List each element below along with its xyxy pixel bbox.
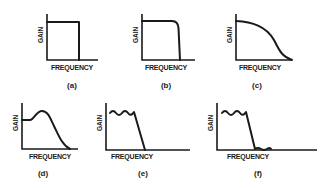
response-curve <box>22 111 70 149</box>
x-axis-label: FREQUENCY <box>51 64 94 72</box>
panel-e: GAIN FREQUENCY (e) <box>96 103 190 178</box>
panel-caption: (c) <box>252 81 262 90</box>
axes <box>106 103 190 150</box>
response-curve <box>222 111 271 150</box>
x-axis-label: FREQUENCY <box>111 153 154 161</box>
panel-d: GAIN FREQUENCY (d) <box>12 103 78 178</box>
panel-a: GAIN FREQUENCY (a) <box>37 14 98 90</box>
y-axis-label: GAIN <box>226 26 233 43</box>
panel-f: GAIN FREQUENCY (f) <box>207 103 317 178</box>
filter-response-diagram: GAIN FREQUENCY (a) GAIN FREQUENCY (b) GA… <box>0 0 332 188</box>
y-axis-label: GAIN <box>132 26 139 43</box>
x-axis-label: FREQUENCY <box>29 153 72 161</box>
response-curve <box>142 21 180 60</box>
y-axis-label: GAIN <box>96 114 103 131</box>
axes <box>217 103 317 150</box>
x-axis-label: FREQUENCY <box>145 64 188 72</box>
panel-caption: (e) <box>138 169 148 178</box>
response-curve <box>236 21 292 60</box>
y-axis-label: GAIN <box>207 114 214 131</box>
panel-caption: (a) <box>67 81 77 90</box>
axes <box>47 14 98 60</box>
y-axis-label: GAIN <box>12 114 19 131</box>
x-axis-label: FREQUENCY <box>239 64 282 72</box>
panel-caption: (f) <box>254 169 262 178</box>
panel-caption: (b) <box>161 81 172 90</box>
x-axis-label: FREQUENCY <box>227 153 270 161</box>
response-curve <box>47 22 79 60</box>
panel-b: GAIN FREQUENCY (b) <box>132 14 195 90</box>
response-curve <box>110 111 145 150</box>
panel-c: GAIN FREQUENCY (c) <box>226 14 292 90</box>
axes <box>22 103 78 149</box>
y-axis-label: GAIN <box>37 26 44 43</box>
panel-caption: (d) <box>38 169 49 178</box>
